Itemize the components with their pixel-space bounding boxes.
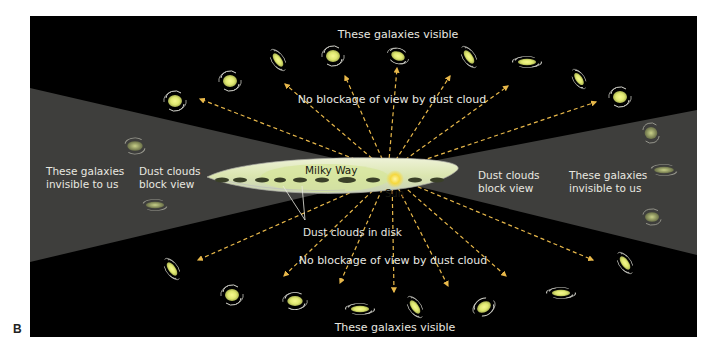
- label-right-invisible-1: These galaxies: [568, 169, 647, 181]
- label-left-invisible-1: These galaxies: [45, 165, 124, 177]
- label-left-dust-1: Dust clouds: [139, 165, 201, 177]
- label-right-invisible-2: invisible to us: [569, 182, 641, 194]
- label-top-no-blockage: No blockage of view by dust cloud: [298, 93, 487, 106]
- milky-way-dust-diagram: These galaxies visible No blockage of vi…: [0, 0, 718, 357]
- label-left-invisible-2: invisible to us: [46, 178, 118, 190]
- label-top-visible: These galaxies visible: [337, 28, 459, 41]
- sun-icon: [386, 170, 404, 188]
- label-left-dust-2: block view: [139, 178, 195, 190]
- label-dust-in-disk: Dust clouds in disk: [303, 226, 403, 238]
- label-right-dust-2: block view: [478, 182, 534, 194]
- label-right-dust-1: Dust clouds: [478, 169, 540, 181]
- panel-label: B: [13, 322, 22, 336]
- label-bottom-visible: These galaxies visible: [334, 321, 456, 334]
- label-milky-way: Milky Way: [305, 164, 358, 176]
- label-bottom-no-blockage: No blockage of view by dust cloud: [299, 254, 488, 267]
- label-sun: Sun: [385, 188, 404, 199]
